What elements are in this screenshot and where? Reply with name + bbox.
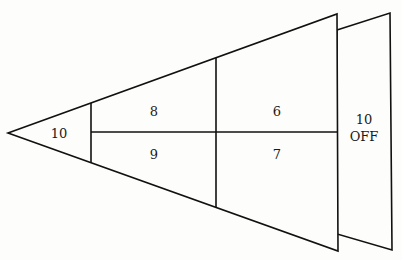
zone-tip-label: 10	[51, 126, 68, 141]
zone-lower-inner-label: 9	[150, 147, 158, 162]
zone-upper-inner-label: 8	[150, 104, 158, 119]
scoring-diagram: 10 8 6 9 7 10 OFF	[0, 0, 402, 260]
zone-lower-outer-label: 7	[273, 147, 281, 162]
back-panel-label-line1: 10	[356, 112, 373, 127]
zone-upper-outer-label: 6	[273, 104, 281, 119]
back-panel-label-line2: OFF	[350, 129, 379, 144]
